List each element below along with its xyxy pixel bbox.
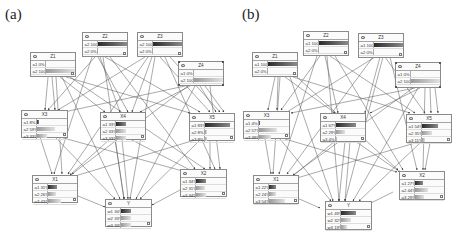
node-x5[interactable]: X5 a1 54% a2 35% a3 11%: [406, 114, 452, 143]
state-label: a2 0%: [361, 50, 373, 55]
node-title: Z1: [31, 54, 75, 59]
state-label: a1 0%: [33, 62, 45, 67]
node-title: Z4: [396, 64, 440, 69]
panel-b: (b): [235, 0, 470, 242]
node-title: X4: [101, 114, 145, 119]
state-label: a1 0%: [398, 72, 410, 77]
node-x3[interactable]: X3 a1 8% a2 59% a3 33%: [21, 110, 68, 138]
node-z4[interactable]: Z4 a1 0% a2 100%: [178, 61, 224, 86]
node-title: X4: [321, 115, 365, 120]
node-title: Z1: [253, 54, 297, 59]
resize-icon[interactable]: [147, 222, 150, 225]
selection-handle[interactable]: [395, 86, 397, 88]
node-x4[interactable]: X4 a1 67% a2 29% a3 4%: [320, 113, 366, 142]
state-label: a2 0%: [140, 49, 152, 54]
node-x4[interactable]: X4 a1 33% a2 33% a3 33%: [100, 112, 146, 140]
node-z2[interactable]: Z2 a1 100% a2 0%: [303, 31, 349, 56]
resize-icon[interactable]: [367, 225, 370, 228]
node-title: X5: [407, 116, 451, 121]
state-label: a1 4%: [246, 121, 258, 126]
node-z4[interactable]: Z4 a1 0% a2 100%: [395, 62, 441, 88]
node-z3[interactable]: Z3 a1 100% a2 0%: [358, 33, 404, 58]
state-label: a1 0%: [181, 71, 193, 76]
resize-icon[interactable]: [71, 72, 74, 75]
node-title: Z4: [179, 63, 223, 68]
node-title: Z3: [359, 35, 403, 40]
resize-icon[interactable]: [63, 133, 66, 136]
selection-handle[interactable]: [178, 84, 180, 86]
state-label: a2 8%: [192, 130, 204, 135]
node-title: X3: [22, 112, 67, 117]
node-x2[interactable]: X2 a1 34% a2 31% a3 34%: [180, 169, 227, 197]
node-y[interactable]: Y w1 49% w2 32% w3 19%: [325, 201, 372, 230]
node-title: Z3: [138, 34, 182, 39]
state-label: a1 8%: [24, 120, 36, 125]
state-label: a2 0%: [85, 49, 97, 54]
node-z1[interactable]: Z1 a1 100% a2 0%: [252, 52, 298, 77]
selection-handle[interactable]: [222, 84, 224, 86]
node-title: Y: [326, 203, 371, 208]
resize-icon[interactable]: [440, 195, 443, 198]
node-title: Z2: [83, 34, 127, 39]
node-title: Y: [106, 201, 151, 206]
state-label: a2 0%: [306, 48, 318, 53]
resize-icon[interactable]: [222, 192, 225, 195]
selection-handle[interactable]: [178, 61, 180, 63]
state-label: a3 8%: [192, 137, 204, 142]
node-z2[interactable]: Z2 a2 100% a2 0%: [82, 32, 128, 57]
node-title: X1: [254, 177, 298, 182]
resize-icon[interactable]: [361, 137, 364, 140]
resize-icon[interactable]: [73, 198, 76, 201]
node-x5[interactable]: X5 a1 83% a2 8% a3 8%: [189, 113, 235, 141]
node-x1[interactable]: X1 a1 31% a2 26% a3 43%: [32, 175, 78, 203]
resize-icon[interactable]: [230, 136, 233, 139]
state-label: a2 0%: [255, 69, 267, 74]
node-title: Z2: [304, 33, 348, 38]
resize-icon[interactable]: [293, 72, 296, 75]
node-z3[interactable]: Z3 a2 100% a2 0%: [137, 32, 183, 57]
selection-handle[interactable]: [222, 61, 224, 63]
resize-icon[interactable]: [399, 53, 402, 56]
selection-handle[interactable]: [439, 62, 441, 64]
resize-icon[interactable]: [447, 138, 450, 141]
resize-icon[interactable]: [141, 135, 144, 138]
resize-icon[interactable]: [178, 52, 181, 55]
node-title: X3: [244, 113, 289, 118]
node-z1[interactable]: Z1 a1 0% a2 100%: [30, 52, 76, 77]
node-title: X1: [33, 177, 77, 182]
node-x1[interactable]: X1 a1 22% a2 24% a3 54%: [253, 175, 299, 204]
selection-handle[interactable]: [439, 86, 441, 88]
node-title: X2: [181, 171, 226, 176]
resize-icon[interactable]: [294, 199, 297, 202]
resize-icon[interactable]: [344, 51, 347, 54]
state-label: a3 4%: [323, 137, 335, 142]
node-y[interactable]: Y w1 34% w2 33% w3 33%: [105, 199, 152, 227]
node-x2[interactable]: X2 a1 27% a2 44% a3 29%: [399, 171, 445, 200]
resize-icon[interactable]: [123, 52, 126, 55]
node-title: X2: [400, 173, 444, 178]
selection-handle[interactable]: [395, 62, 397, 64]
node-title: X5: [190, 115, 234, 120]
node-x3[interactable]: X3 a1 4% a2 57% a3 39%: [243, 111, 290, 139]
panel-a: (a): [0, 0, 235, 242]
resize-icon[interactable]: [285, 134, 288, 137]
